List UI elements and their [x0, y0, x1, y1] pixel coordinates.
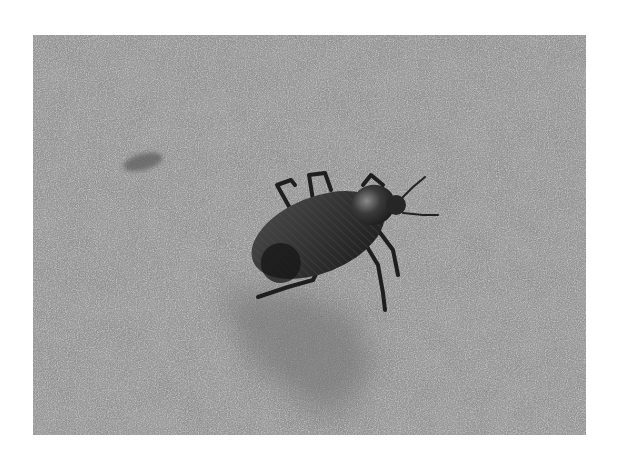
beetle-photo: [33, 35, 586, 435]
photo-frame: [33, 35, 586, 435]
